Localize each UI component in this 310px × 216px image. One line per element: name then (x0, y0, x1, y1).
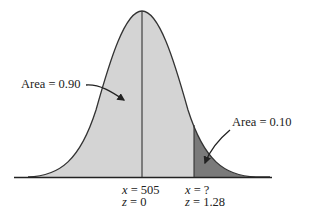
cutoff-z-label: z = 1.28 (184, 195, 225, 209)
right-area-label: Area = 0.10 (232, 115, 291, 129)
left-area-label: Area = 0.90 (21, 77, 80, 91)
mean-z-label: z = 0 (121, 195, 146, 209)
normal-curve-diagram: Area = 0.90 Area = 0.10 x = 505 z = 0 x … (0, 0, 310, 216)
left-shaded-area (28, 11, 272, 177)
